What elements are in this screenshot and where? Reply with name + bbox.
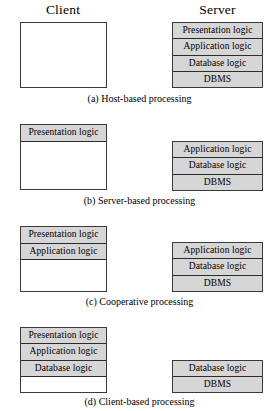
section-b-client-stack: Presentation logic bbox=[20, 124, 107, 190]
section-b-caption: (b) Server-based processing bbox=[0, 195, 279, 207]
section-d-caption: (d) Client-based processing bbox=[0, 396, 279, 408]
column-heading-server: Server bbox=[172, 2, 263, 17]
section-d-server-stack: Database logic DBMS bbox=[172, 360, 263, 393]
stack-row: Database logic bbox=[173, 158, 262, 174]
section-d-client-stack: Presentation logic Application logic Dat… bbox=[20, 327, 107, 393]
stack-row: Database logic bbox=[173, 361, 262, 377]
stack-row: Application logic bbox=[173, 243, 262, 259]
stack-row bbox=[21, 142, 106, 158]
stack-row: DBMS bbox=[173, 276, 262, 291]
section-a-caption: (a) Host-based processing bbox=[0, 93, 279, 105]
stack-row: Application logic bbox=[21, 244, 106, 261]
stack-row: DBMS bbox=[173, 72, 262, 87]
stack-row bbox=[21, 71, 106, 87]
stack-row: DBMS bbox=[173, 175, 262, 190]
column-heading-client: Client bbox=[20, 2, 106, 17]
stack-row bbox=[21, 377, 106, 392]
stack-row bbox=[21, 55, 106, 71]
stack-row bbox=[21, 276, 106, 292]
stack-row bbox=[21, 260, 106, 276]
stack-row: Application logic bbox=[173, 142, 262, 158]
stack-row: Application logic bbox=[21, 344, 106, 360]
stack-row: DBMS bbox=[173, 377, 262, 392]
stack-row bbox=[21, 173, 106, 189]
stack-row: Database logic bbox=[21, 361, 106, 377]
section-c-client-stack: Presentation logic Application logic bbox=[20, 226, 107, 292]
section-a-server-stack: Presentation logic Application logic Dat… bbox=[172, 22, 263, 88]
stack-row: Presentation logic bbox=[173, 23, 262, 39]
section-a-client-stack bbox=[20, 22, 107, 88]
stack-row bbox=[21, 23, 106, 39]
section-c-server-stack: Application logic Database logic DBMS bbox=[172, 242, 263, 292]
figure-client-server-architectures: Client Server Presentation logic Applica… bbox=[0, 0, 279, 411]
stack-row: Presentation logic bbox=[21, 227, 106, 244]
stack-row: Database logic bbox=[173, 259, 262, 275]
stack-row bbox=[21, 39, 106, 55]
stack-row bbox=[21, 158, 106, 174]
section-b-server-stack: Application logic Database logic DBMS bbox=[172, 141, 263, 191]
stack-row: Presentation logic bbox=[21, 125, 106, 142]
section-c-caption: (c) Cooperative processing bbox=[0, 296, 279, 308]
stack-row: Application logic bbox=[173, 39, 262, 55]
stack-row: Database logic bbox=[173, 56, 262, 72]
stack-row: Presentation logic bbox=[21, 328, 106, 344]
